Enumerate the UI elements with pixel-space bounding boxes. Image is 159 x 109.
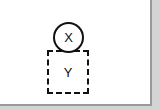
node-y-dashed-square: Y bbox=[47, 50, 89, 94]
node-y-label: Y bbox=[64, 65, 73, 80]
node-x-circle: X bbox=[53, 22, 84, 53]
diagram-canvas: Y X bbox=[0, 0, 152, 106]
node-x-label: X bbox=[64, 30, 73, 45]
